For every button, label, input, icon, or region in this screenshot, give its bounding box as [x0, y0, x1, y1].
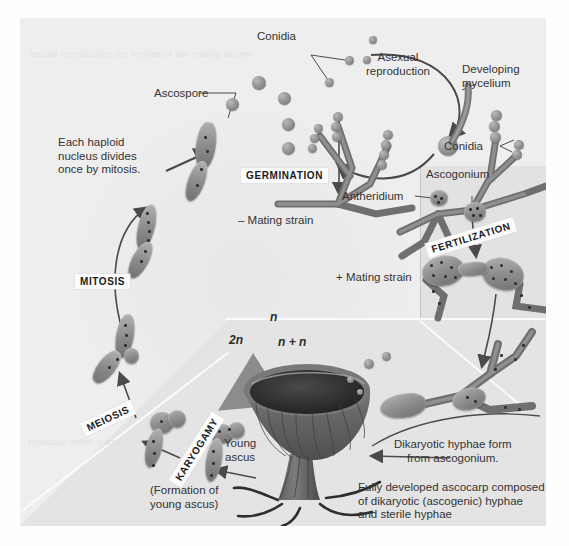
ascospore [252, 76, 266, 90]
label-ascospore: Ascospore [154, 87, 208, 101]
ploidy-dikaryon: n + n [278, 336, 306, 350]
zygote-lobe [168, 410, 186, 428]
ascus-lobe [124, 348, 139, 364]
ascogonium-body [464, 202, 486, 222]
diagram-panel: sexual reproduction the hyphae of two ma… [20, 18, 546, 526]
label-asexual-reproduction: Asexual reproduction [366, 51, 430, 78]
ploidy-haploid: n [270, 311, 277, 325]
spore [369, 36, 377, 44]
spore [325, 78, 334, 87]
stage-germination: GERMINATION [241, 168, 328, 183]
label-conidia-right: Conidia [444, 140, 483, 154]
label-ascogonium: Ascogonium [426, 168, 489, 182]
antheridium-body [430, 190, 448, 206]
ascospore [226, 98, 239, 111]
ascospore [282, 142, 295, 155]
ascospore [278, 92, 291, 105]
label-plus-mating-strain: + Mating strain [336, 271, 412, 285]
label-ascocarp-caption: Fully developed ascocarp composed of dik… [358, 481, 545, 522]
spore [345, 56, 354, 65]
label-dikaryotic-hyphae: Dikaryotic hyphae form from ascogonium. [394, 438, 512, 465]
label-antheridium: Antheridium [342, 190, 403, 204]
ploidy-diploid: 2n [229, 334, 243, 348]
ghost-text-left-top: sexual reproduction the hyphae of two ma… [30, 48, 251, 60]
label-young-ascus: Young ascus [224, 437, 256, 464]
label-minus-mating-strain: – Mating strain [238, 214, 313, 228]
figure-canvas: sexual reproduction the hyphae of two ma… [0, 0, 569, 546]
label-conidia-left: Conidia [257, 30, 296, 44]
stage-mitosis: MITOSIS [75, 274, 130, 289]
label-formation-of-young-ascus: (Formation of young ascus) [150, 484, 218, 511]
label-each-haploid-nucleus: Each haploid nucleus divides once by mit… [58, 136, 140, 177]
ascospore [282, 118, 295, 131]
label-developing-mycelium: Developing mycelium [462, 63, 520, 90]
